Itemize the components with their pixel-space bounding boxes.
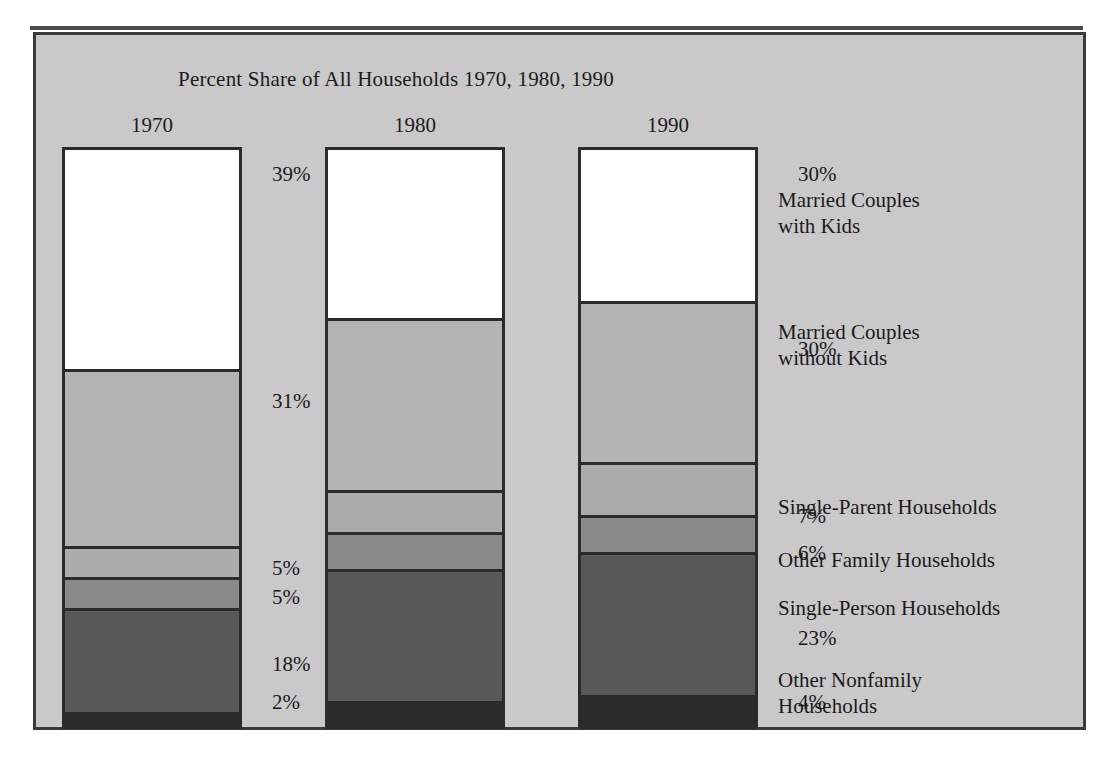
stacked-bar-1990[interactable] <box>578 147 758 729</box>
bar-segment[interactable] <box>328 704 502 726</box>
bar-segment[interactable] <box>581 698 755 726</box>
legend-item-label: Single-Person Households <box>778 595 1000 621</box>
bar-segment[interactable] <box>581 150 755 304</box>
segment-value-label: 2% <box>272 690 300 715</box>
bar-segment[interactable] <box>581 304 755 464</box>
legend-item[interactable]: Married Coupleswith Kids <box>778 187 920 240</box>
bar-segment[interactable] <box>65 372 239 549</box>
bar-segment[interactable] <box>328 535 502 572</box>
bar-segment[interactable] <box>65 715 239 726</box>
chart-legend: Married Coupleswith KidsMarried Couplesw… <box>778 147 1108 729</box>
bar-segment[interactable] <box>65 150 239 372</box>
legend-item[interactable]: Single-Person Households <box>778 595 1000 621</box>
legend-item-label: Other Family Households <box>778 547 995 573</box>
legend-item-label: Married Couples <box>778 187 920 213</box>
legend-item-label: Single-Parent Households <box>778 494 997 520</box>
bar-segment[interactable] <box>328 572 502 704</box>
legend-item-label: Other Nonfamily <box>778 667 922 693</box>
legend-item[interactable]: Other Family Households <box>778 547 995 573</box>
legend-item-label-line2: Households <box>778 693 922 719</box>
bar-segment[interactable] <box>65 549 239 580</box>
chart-panel: Percent Share of All Households 1970, 19… <box>33 32 1086 730</box>
year-label-1980: 1980 <box>325 113 505 138</box>
figure-stacked-bar-chart: Percent Share of All Households 1970, 19… <box>0 0 1119 766</box>
page-top-rule <box>30 26 1083 30</box>
segment-value-label: 5% <box>272 556 300 581</box>
bar-segment[interactable] <box>581 518 755 555</box>
legend-item-label: Married Couples <box>778 319 920 345</box>
legend-item-label-line2: with Kids <box>778 213 920 239</box>
bar-segment[interactable] <box>581 555 755 698</box>
bar-segment[interactable] <box>328 150 502 321</box>
bar-segment[interactable] <box>65 611 239 715</box>
legend-item[interactable]: Other NonfamilyHouseholds <box>778 667 922 720</box>
legend-item[interactable]: Married Coupleswithout Kids <box>778 319 920 372</box>
bar-segment[interactable] <box>65 580 239 611</box>
segment-value-label: 5% <box>272 585 300 610</box>
segment-value-label: 31% <box>272 389 311 414</box>
legend-item-label-line2: without Kids <box>778 345 920 371</box>
legend-item[interactable]: Single-Parent Households <box>778 494 997 520</box>
chart-title: Percent Share of All Households 1970, 19… <box>178 67 614 92</box>
segment-value-label: 39% <box>272 162 311 187</box>
bar-segment[interactable] <box>581 465 755 518</box>
bar-segment[interactable] <box>328 321 502 492</box>
year-label-1990: 1990 <box>578 113 758 138</box>
segment-value-label: 18% <box>272 652 311 677</box>
stacked-bar-1980[interactable] <box>325 147 505 729</box>
year-label-1970: 1970 <box>62 113 242 138</box>
stacked-bar-1970[interactable] <box>62 147 242 729</box>
bar-segment[interactable] <box>328 493 502 535</box>
